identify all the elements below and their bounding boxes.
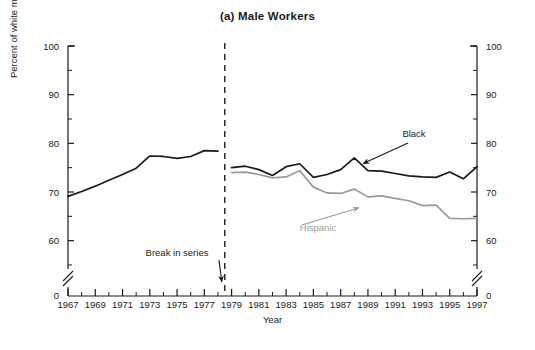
y-axis-tick-label: 80 xyxy=(486,138,497,149)
x-axis-tick-label: 1977 xyxy=(194,299,215,310)
x-axis-tick-label: 1985 xyxy=(303,299,324,310)
y-axis-tick-label: 60 xyxy=(48,235,59,246)
x-axis-tick-label: 1995 xyxy=(439,299,460,310)
right-y-axis-break-mark-2 xyxy=(472,276,482,286)
left-y-axis-break-mark-1 xyxy=(63,271,73,281)
y-axis-tick-label: 60 xyxy=(486,235,497,246)
x-axis-tick-label: 1987 xyxy=(330,299,351,310)
annotation-label-black: Black xyxy=(402,128,425,139)
series-line-hispanic xyxy=(232,171,477,219)
chart-plot-area: 0607080901000607080901001967196919711973… xyxy=(0,0,535,350)
series-line-black xyxy=(232,158,477,179)
y-axis-tick-label: 70 xyxy=(48,187,59,198)
x-axis-tick-label: 1997 xyxy=(466,299,487,310)
x-axis-tick-label: 1973 xyxy=(139,299,160,310)
annotation-label-break-in-series: Break in series xyxy=(146,247,209,258)
x-axis-label: Year xyxy=(263,314,282,325)
y-axis-tick-label: 90 xyxy=(48,89,59,100)
x-axis-tick-label: 1979 xyxy=(221,299,242,310)
x-axis-tick-label: 1981 xyxy=(248,299,269,310)
x-axis-tick-label: 1967 xyxy=(57,299,78,310)
x-axis-tick-label: 1971 xyxy=(112,299,133,310)
annotation-arrow-black xyxy=(363,143,408,164)
x-axis-tick-label: 1993 xyxy=(412,299,433,310)
x-axis-tick-label: 1975 xyxy=(166,299,187,310)
figure-container: (a) Male Workers Percent of white male e… xyxy=(0,0,535,350)
y-axis-tick-label: 90 xyxy=(486,89,497,100)
x-axis-tick-label: 1989 xyxy=(357,299,378,310)
x-axis-tick-label: 1991 xyxy=(385,299,406,310)
right-y-axis-break-mark-1 xyxy=(472,271,482,281)
y-axis-tick-label: 100 xyxy=(43,41,59,52)
left-y-axis-break-mark-2 xyxy=(63,276,73,286)
series-line-black xyxy=(68,151,218,197)
y-axis-tick-label: 70 xyxy=(486,187,497,198)
x-axis-tick-label: 1983 xyxy=(276,299,297,310)
x-axis-tick-label: 1969 xyxy=(85,299,106,310)
y-axis-tick-label: 100 xyxy=(486,41,502,52)
y-axis-tick-label: 80 xyxy=(48,138,59,149)
annotation-arrow-break-in-series xyxy=(219,260,222,282)
